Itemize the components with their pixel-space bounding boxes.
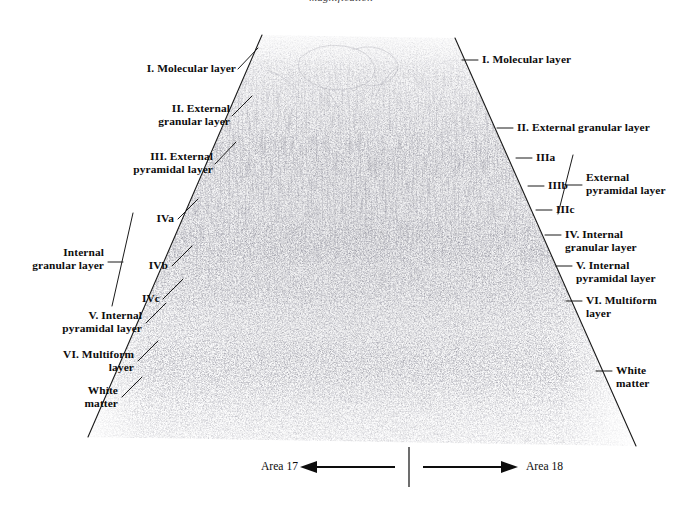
label-left-white-matter: White matter (22, 384, 118, 410)
label-right-iiic: IIIc (556, 203, 602, 216)
caption-area-18: Area 18 (526, 460, 596, 473)
label-left-external-pyramidal-layer: III. External pyramidal layer (40, 150, 213, 176)
label-right-external-granular-layer: II. External granular layer (517, 121, 682, 134)
label-left-multiform-layer: VI. Multiform layer (6, 348, 134, 374)
label-left-molecular-layer: I. Molecular layer (60, 62, 236, 75)
label-left-iva: IVa (120, 212, 174, 225)
label-right-internal-pyramidal-layer: V. Internal pyramidal layer (576, 259, 682, 285)
label-right-multiform-layer: VI. Multiform layer (586, 294, 682, 320)
label-right-internal-granular-layer: IV. Internal granular layer (565, 228, 682, 254)
label-right-molecular-layer: I. Molecular layer (482, 53, 672, 66)
label-left-ivb: IVb (114, 259, 168, 272)
label-right-white-matter: White matter (616, 364, 682, 390)
label-left-internal-pyramidal-layer: V. Internal pyramidal layer (10, 309, 142, 335)
label-right-external-pyramidal-layer: External pyramidal layer (586, 171, 682, 197)
label-left-ivc: IVc (106, 292, 160, 305)
label-left-external-granular-layer: II. External granular layer (60, 102, 230, 128)
label-left-internal-granular-layer: Internal granular layer (0, 246, 104, 272)
figure-root: magnification (0, 0, 682, 509)
right-arrow-icon (501, 461, 518, 473)
caption-arrows (300, 447, 518, 487)
caption-area-17: Area 17 (236, 460, 298, 473)
left-arrow-icon (300, 461, 317, 473)
label-right-iiia: IIIa (536, 151, 582, 164)
